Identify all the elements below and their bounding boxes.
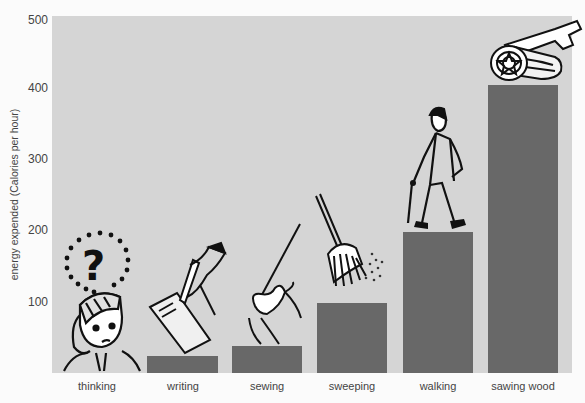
bar-writing (147, 356, 218, 373)
saw-and-log-icon (485, 15, 585, 85)
thinking-man-icon: ? (52, 225, 147, 373)
broom-icon (312, 192, 392, 292)
y-axis-label: energy expended (Calories per hour) (8, 16, 20, 373)
x-label-thinking: thinking (47, 380, 147, 392)
x-label-sweeping: sweeping (302, 380, 402, 392)
bar-sewing (232, 346, 302, 373)
writing-hand-icon (145, 245, 240, 355)
bar-sweeping (317, 303, 387, 373)
x-label-sawing-wood: sawing wood (473, 380, 573, 392)
walking-man-icon (400, 105, 475, 233)
sewing-hand-icon (245, 222, 305, 347)
bar-walking (403, 232, 473, 373)
svg-text:?: ? (82, 243, 105, 289)
bar-sawing-wood (488, 85, 558, 373)
